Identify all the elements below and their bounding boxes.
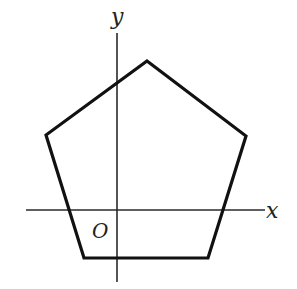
origin-label: O: [92, 219, 108, 243]
x-axis-label: x: [266, 198, 279, 223]
pentagon: [46, 61, 246, 258]
y-axis-label: y: [110, 4, 124, 29]
coordinate-diagram: x y O: [0, 0, 297, 289]
